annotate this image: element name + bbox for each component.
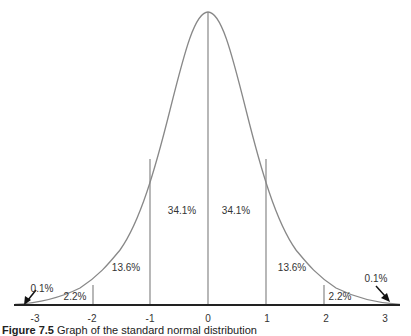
tick-p3: 3: [382, 313, 388, 324]
figure-caption: Figure 7.5 Graph of the standard normal …: [2, 324, 257, 336]
label-band-1-2: 13.6%: [278, 262, 306, 273]
tick-p1: 1: [264, 313, 270, 324]
caption-text: Graph of the standard normal distributio…: [54, 324, 257, 336]
tick-m2: -2: [88, 313, 97, 324]
arrow-right-shaft: [376, 286, 385, 296]
label-band-m3-m2: 2.2%: [64, 291, 87, 302]
label-tail-left: 0.1%: [31, 283, 54, 294]
tick-0: 0: [205, 313, 211, 324]
caption-prefix: Figure 7.5: [2, 324, 54, 336]
label-band-m1-0: 34.1%: [168, 205, 196, 216]
label-band-2-3: 2.2%: [329, 291, 352, 302]
label-band-m2-m1: 13.6%: [112, 262, 140, 273]
label-tail-right: 0.1%: [365, 273, 388, 284]
tick-m3: -3: [31, 313, 40, 324]
arrow-right-head: [381, 293, 390, 302]
label-band-0-1: 34.1%: [222, 205, 250, 216]
tick-p2: 2: [323, 313, 329, 324]
tick-m1: -1: [146, 313, 155, 324]
